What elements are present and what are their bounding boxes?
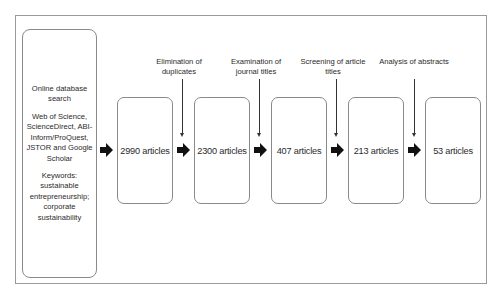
source-databases: Web of Science, ScienceDirect, ABI-Infor… — [25, 112, 94, 164]
source-title: Online database search — [25, 84, 94, 105]
step-arrow-line — [414, 79, 415, 135]
stage-box-2990: 2990 articles — [117, 97, 173, 204]
flow-arrow-icon — [331, 143, 344, 157]
step-label-duplicates: Elimination of duplicates — [144, 57, 214, 77]
step-label-titles: Screening of article titles — [298, 57, 368, 77]
keywords-label: Keywords: — [42, 171, 77, 180]
flow-arrow-icon — [408, 143, 421, 157]
step-label-abstracts: Analysis of abstracts — [379, 57, 449, 67]
step-arrow-head-icon — [334, 133, 338, 137]
step-arrow-line — [182, 79, 183, 135]
stage-box-407: 407 articles — [271, 97, 327, 204]
stage-box-213: 213 articles — [348, 97, 404, 204]
flow-arrow-icon — [100, 143, 113, 157]
step-arrow-line — [259, 79, 260, 135]
source-box: Online database search Web of Science, S… — [22, 29, 97, 278]
step-arrow-head-icon — [180, 133, 184, 137]
step-arrow-head-icon — [412, 133, 416, 137]
source-keywords: Keywords: sustainable entrepreneurship; … — [25, 171, 94, 223]
step-arrow-head-icon — [257, 133, 261, 137]
step-label-journal: Examination of journal titles — [221, 57, 291, 77]
stage-box-2300: 2300 articles — [194, 97, 250, 204]
flow-arrow-icon — [177, 143, 190, 157]
step-arrow-line — [336, 79, 337, 135]
flow-arrow-icon — [254, 143, 267, 157]
stage-box-53: 53 articles — [425, 97, 481, 204]
keywords-value: sustainable entrepreneurship; corporate … — [30, 181, 90, 221]
